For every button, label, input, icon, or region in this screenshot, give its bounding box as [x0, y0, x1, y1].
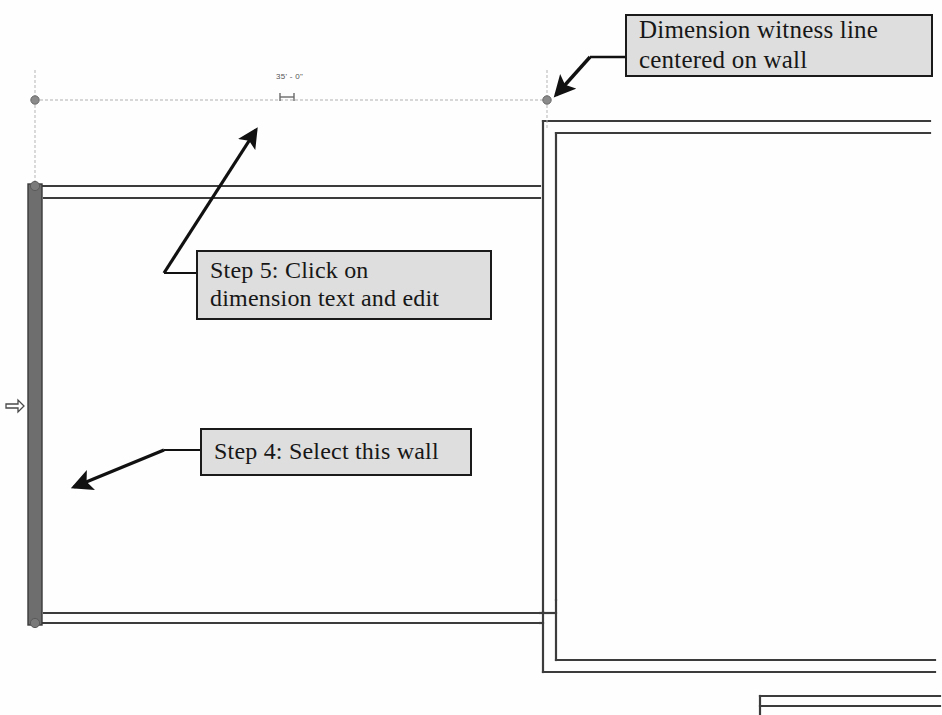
callout-witness-line[interactable]: Dimension witness line centered on wall [625, 14, 933, 77]
wall-grip-top-left [30, 181, 39, 190]
dimension-string[interactable] [30, 70, 551, 628]
dimension-flip-icon[interactable] [6, 400, 24, 412]
leader-step4-callout [74, 450, 200, 487]
callout-witness-line-text: Dimension witness line centered on wall [639, 15, 878, 74]
dimension-grip-left [31, 96, 39, 104]
dimension-grip-right [543, 96, 551, 104]
drawing-geometry [0, 0, 942, 715]
callout-step-4-text: Step 4: Select this wall [214, 437, 439, 465]
callout-step-5[interactable]: Step 5: Click on dimension text and edit [196, 250, 492, 320]
callout-step-5-text: Step 5: Click on dimension text and edit [210, 256, 439, 313]
wall-grip-bottom-left [30, 618, 39, 627]
dimension-value-text[interactable]: 35' - 0" [276, 72, 303, 81]
wall-geometry[interactable] [36, 121, 940, 715]
floor-plan-canvas[interactable]: 35' - 0" Dimension witness line centered… [0, 0, 942, 715]
callout-step-4[interactable]: Step 4: Select this wall [200, 428, 472, 476]
selected-wall-left[interactable] [28, 184, 42, 625]
leader-witness-callout [556, 57, 625, 95]
